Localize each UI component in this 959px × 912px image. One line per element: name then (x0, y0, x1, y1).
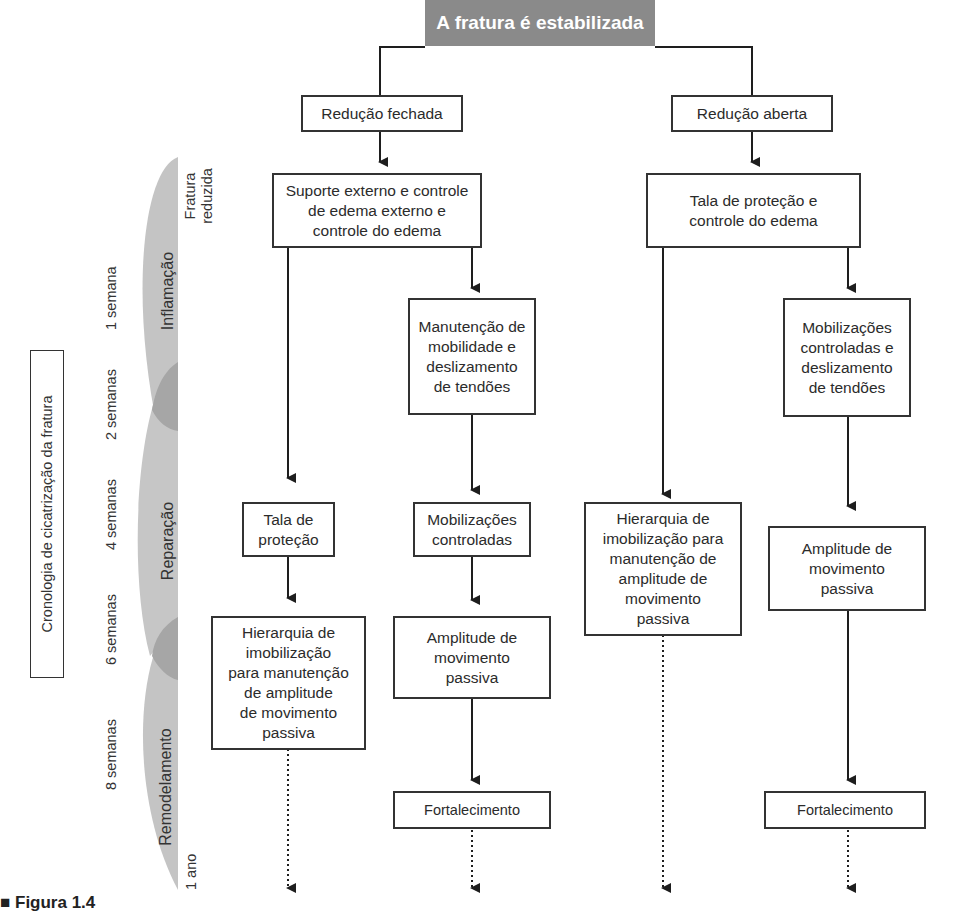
open-immobilization-hierarchy-node: Hierarquia de imobilização para manutenç… (584, 502, 742, 636)
root-node-title: A fratura é estabilizada (425, 0, 655, 46)
tick-1-year: 1 ano (183, 854, 199, 890)
tick-1-week: 1 semana (103, 266, 119, 330)
closed-strengthening-node: Fortalecimento (393, 791, 551, 829)
tick-4-weeks: 4 semanas (103, 479, 119, 550)
closed-immobilization-hierarchy-node: Hierarquia de imobilização para manutenç… (211, 616, 366, 750)
phase-repair: Reparação (159, 501, 177, 581)
timeline-title-box: Cronologia de cicatrização da fratura (30, 350, 64, 678)
tick-8-weeks: 8 semanas (103, 719, 119, 790)
phase-inflammation: Inflamação (159, 251, 177, 331)
tick-6-weeks: 6 semanas (103, 594, 119, 665)
tick-2-weeks: 2 semanas (103, 369, 119, 440)
flowchart-connectors (0, 0, 959, 912)
closed-reduction-node: Redução fechada (301, 95, 463, 132)
phase-remodeling: Remodelamento (157, 727, 175, 847)
timeline-title: Cronologia de cicatrização da fratura (39, 396, 55, 633)
open-controlled-mobilizations-node: Mobilizações controladas e deslizamento … (783, 298, 911, 417)
open-strengthening-node: Fortalecimento (764, 791, 926, 829)
open-passive-rom-node: Amplitude de movimento passiva (768, 526, 926, 611)
tick-fracture-reduced: Fratura reduzida (182, 166, 218, 226)
figure-caption: ■ Figura 1.4 (0, 893, 95, 912)
open-reduction-node: Redução aberta (671, 95, 833, 132)
closed-external-support-node: Suporte externo e controle de edema exte… (272, 173, 482, 248)
closed-passive-rom-node: Amplitude de movimento passiva (393, 616, 551, 699)
closed-controlled-mobilizations-node: Mobilizações controladas (413, 502, 531, 557)
open-protection-splint-edema-node: Tala de proteção e controle do edema (646, 173, 861, 248)
closed-mobility-maintenance-node: Manutenção de mobilidade e deslizamento … (408, 298, 536, 415)
closed-protection-splint-node: Tala de proteção (242, 502, 335, 557)
